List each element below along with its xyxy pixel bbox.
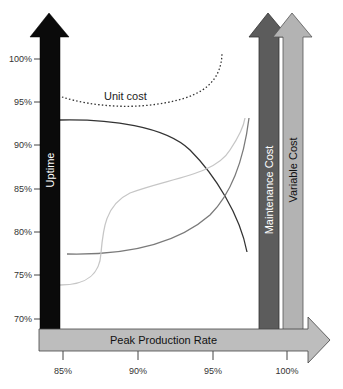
variable-cost-label: Variable Cost bbox=[287, 137, 299, 202]
y-tick-label: 100% bbox=[9, 54, 32, 64]
x-axis-ticks: 85% 90% 95% 100% bbox=[54, 351, 299, 376]
variable-cost-curve bbox=[60, 118, 245, 285]
chart-canvas: 100% 95% 90% 85% 80% 75% 70% Unit cost M… bbox=[0, 0, 343, 389]
curves bbox=[60, 52, 249, 285]
maintenance-cost-curve bbox=[67, 118, 249, 254]
y-tick-label: 95% bbox=[14, 97, 32, 107]
peak-production-label: Peak Production Rate bbox=[110, 334, 217, 346]
x-tick-label: 85% bbox=[54, 366, 72, 376]
x-tick-label: 100% bbox=[275, 366, 298, 376]
y-tick-label: 75% bbox=[14, 270, 32, 280]
x-tick-label: 95% bbox=[204, 366, 222, 376]
maintenance-cost-label: Maintenance Cost bbox=[263, 146, 275, 235]
unit-cost-label: Unit cost bbox=[104, 90, 147, 102]
y-tick-label: 90% bbox=[14, 140, 32, 150]
uptime-label: Uptime bbox=[44, 153, 56, 188]
x-tick-label: 90% bbox=[129, 366, 147, 376]
y-tick-label: 85% bbox=[14, 184, 32, 194]
y-tick-label: 80% bbox=[14, 227, 32, 237]
y-tick-label: 70% bbox=[14, 314, 32, 324]
y-axis-ticks: 100% 95% 90% 85% 80% 75% 70% bbox=[9, 54, 40, 324]
